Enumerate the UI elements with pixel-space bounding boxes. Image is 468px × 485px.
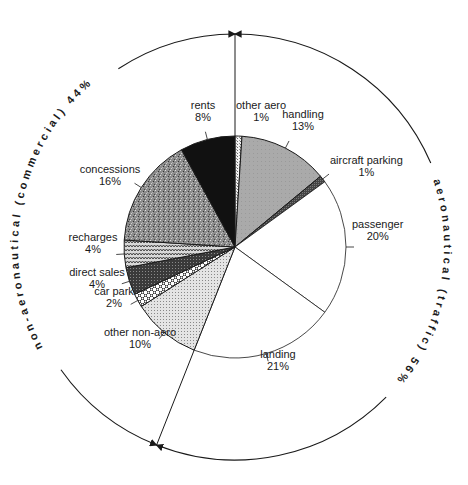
slice-percent: 2% (106, 297, 122, 309)
slice-label: handling (282, 108, 324, 120)
group-arc (118, 34, 235, 69)
slice-label: recharges (69, 231, 118, 243)
group-arc (61, 370, 157, 445)
leader-line (285, 141, 289, 148)
group-label-non-aeronautical: non-aeronautical (commercial) 44% (8, 75, 95, 352)
slice-label: landing (260, 348, 295, 360)
leader-line (135, 183, 142, 187)
slice-label: aircraft parking (330, 154, 403, 166)
leader-line (323, 174, 329, 179)
slice-percent: 8% (195, 111, 211, 123)
slice-percent: 20% (367, 230, 389, 242)
leader-line (205, 132, 207, 140)
slice-percent: 1% (253, 111, 269, 123)
slice-percent: 1% (358, 166, 374, 178)
slice-label: direct sales (69, 266, 125, 278)
leader-line (116, 254, 124, 255)
slice-label: other non-aero (104, 326, 176, 338)
slice-percent: 16% (99, 175, 121, 187)
slice-percent: 21% (267, 360, 289, 372)
slice-label: concessions (80, 163, 141, 175)
pie-chart: aeronautical (traffic) 56%non-aeronautic… (0, 0, 468, 485)
slice-percent: 13% (292, 120, 314, 132)
slice-label: other aero (236, 99, 286, 111)
slice-label: passenger (352, 218, 404, 230)
slice-label: rents (191, 99, 216, 111)
leader-line (131, 300, 138, 304)
slice-percent: 10% (129, 338, 151, 350)
chart-canvas: aeronautical (traffic) 56%non-aeronautic… (0, 0, 468, 485)
slice-percent: 4% (85, 243, 101, 255)
group-arc (157, 397, 387, 460)
group-label-aeronautical: aeronautical (traffic) 56% (393, 177, 454, 388)
pie-slices (124, 136, 346, 358)
slice-percent: 4% (89, 278, 105, 290)
leader-line (122, 281, 130, 283)
